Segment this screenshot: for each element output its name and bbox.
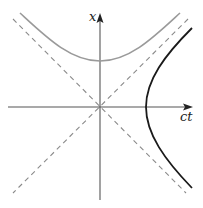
- x-axis-label: x: [89, 9, 97, 24]
- ct-axis-label: ct: [180, 109, 193, 124]
- spacetime-diagram: x ct: [0, 0, 203, 208]
